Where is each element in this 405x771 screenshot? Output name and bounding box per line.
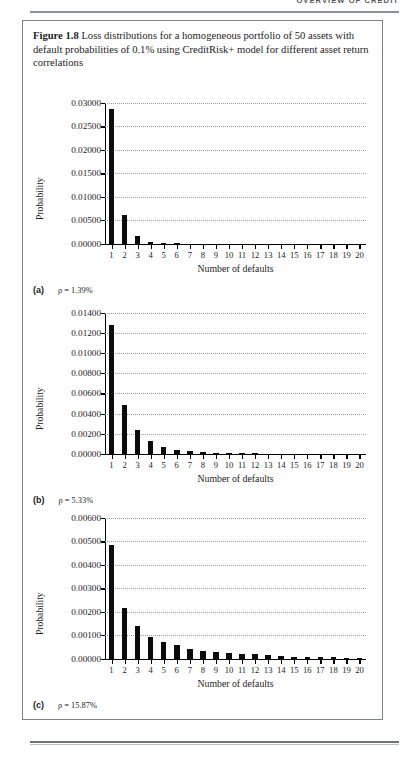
- bar: [239, 453, 244, 454]
- y-tick-label: 0.02000: [71, 145, 101, 155]
- bar: [226, 453, 231, 454]
- y-tick-mark: [101, 635, 105, 636]
- x-tick-label: 18: [329, 460, 338, 470]
- plot-area-a: [105, 103, 366, 245]
- x-tick-label: 15: [290, 460, 299, 470]
- panel-rho-c: ρ = 15.87%: [58, 701, 97, 710]
- gridline: [105, 313, 366, 314]
- bar: [187, 649, 192, 659]
- x-tick-label: 5: [162, 460, 166, 470]
- bar: [291, 657, 296, 659]
- x-tick-label: 17: [316, 460, 325, 470]
- gridline: [105, 373, 366, 374]
- x-tick-label: 10: [225, 460, 234, 470]
- chart-a: Probability 0.000000.005000.010000.01500…: [31, 99, 376, 279]
- x-tick-label: 12: [251, 250, 260, 260]
- x-tick-labels-a: 1234567891011121314151617181920: [105, 249, 366, 262]
- gridline: [105, 588, 366, 589]
- y-tick-labels-a: 0.000000.005000.010000.015000.020000.025…: [45, 99, 101, 249]
- bar: [200, 452, 205, 454]
- panel-caption-a: (a)ρ = 1.39%: [33, 285, 93, 295]
- bar: [213, 652, 218, 659]
- y-tick-label: 0.02500: [71, 121, 101, 131]
- bar: [187, 451, 192, 454]
- x-tick-label: 19: [342, 665, 351, 675]
- running-head-text: OVERVIEW OF CREDIT: [296, 0, 399, 5]
- bar: [109, 325, 114, 454]
- x-tick-label: 8: [201, 460, 205, 470]
- bar: [331, 657, 336, 658]
- bar: [265, 655, 270, 659]
- y-tick-label: 0.00600: [71, 388, 101, 398]
- x-tick-label: 2: [122, 460, 126, 470]
- x-tick-label: 1: [109, 250, 113, 260]
- x-tick-label: 19: [342, 460, 351, 470]
- gridline: [105, 612, 366, 613]
- x-tick-label: 6: [175, 665, 179, 675]
- y-tick-mark: [101, 373, 105, 374]
- y-tick-label: 0.00000: [71, 449, 101, 459]
- figure-box: Figure 1.8 Loss distributions for a homo…: [22, 20, 383, 720]
- bar: [357, 658, 362, 659]
- y-tick-label: 0.00000: [71, 654, 101, 664]
- x-tick-label: 1: [109, 460, 113, 470]
- bar: [305, 657, 310, 659]
- x-tick-label: 5: [162, 665, 166, 675]
- gridline: [105, 353, 366, 354]
- y-tick-label: 0.00300: [71, 583, 101, 593]
- y-tick-label: 0.01000: [71, 348, 101, 358]
- panel-a: Probability 0.000000.005000.010000.01500…: [23, 99, 384, 314]
- panel-letter-b: (b): [33, 495, 45, 505]
- y-tick-mark: [101, 333, 105, 334]
- bar: [252, 654, 257, 658]
- bar: [174, 450, 179, 454]
- gridline: [105, 103, 366, 104]
- x-tick-labels-b: 1234567891011121314151617181920: [105, 459, 366, 472]
- x-tick-label: 2: [122, 665, 126, 675]
- y-tick-mark: [101, 565, 105, 566]
- y-tick-labels-c: 0.000000.001000.002000.003000.004000.005…: [45, 514, 101, 664]
- x-tick-label: 11: [238, 460, 246, 470]
- x-tick-label: 4: [149, 460, 153, 470]
- panel-caption-c: (c)ρ = 15.87%: [33, 700, 97, 710]
- x-tick-label: 10: [225, 665, 234, 675]
- panel-caption-b: (b)ρ = 5.33%: [33, 495, 93, 505]
- x-tick-label: 14: [277, 665, 286, 675]
- x-axis-line-b: [105, 454, 366, 455]
- y-tick-label: 0.00800: [71, 368, 101, 378]
- gridline: [105, 333, 366, 334]
- x-tick-label: 18: [329, 250, 338, 260]
- x-tick-label: 1: [109, 665, 113, 675]
- y-tick-mark: [101, 150, 105, 151]
- x-tick-label: 20: [355, 460, 364, 470]
- y-tick-mark: [101, 313, 105, 314]
- x-tick-label: 8: [201, 665, 205, 675]
- plot-area-b: [105, 313, 366, 455]
- y-tick-mark: [101, 454, 105, 455]
- bar: [109, 545, 114, 659]
- x-tick-label: 10: [225, 250, 234, 260]
- bar: [226, 653, 231, 659]
- x-axis-label-a: Number of defaults: [105, 263, 366, 274]
- y-tick-mark: [101, 659, 105, 660]
- x-tick-label: 19: [342, 250, 351, 260]
- y-tick-label: 0.03000: [71, 98, 101, 108]
- x-tick-label: 17: [316, 665, 325, 675]
- y-tick-label: 0.00400: [71, 409, 101, 419]
- x-tick-label: 18: [329, 665, 338, 675]
- gridline: [105, 635, 366, 636]
- bar: [148, 242, 153, 244]
- bar: [109, 109, 114, 244]
- panel-c: Probability 0.000000.001000.002000.00300…: [23, 514, 384, 729]
- bar: [122, 215, 127, 244]
- y-tick-mark: [101, 612, 105, 613]
- y-tick-mark: [101, 103, 105, 104]
- y-tick-label: 0.00000: [71, 239, 101, 249]
- x-tick-label: 7: [188, 665, 192, 675]
- bar: [148, 441, 153, 453]
- panel-letter-c: (c): [33, 700, 44, 710]
- x-tick-labels-c: 1234567891011121314151617181920: [105, 664, 366, 677]
- gridline: [105, 126, 366, 127]
- footer-rule-secondary: [30, 744, 399, 745]
- bar: [148, 637, 153, 659]
